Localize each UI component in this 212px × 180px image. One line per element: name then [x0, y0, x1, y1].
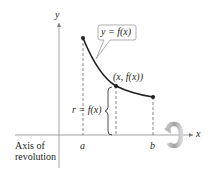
sample-point-label: (x, f(x)) [113, 72, 143, 82]
y-axis-label: y [55, 10, 59, 20]
x-axis-label: x [196, 129, 200, 139]
tick-label-a: a [80, 141, 85, 151]
axis-of-revolution-label-line2: revolution [15, 152, 56, 162]
radius-brace-icon [105, 87, 112, 135]
tick-label-b: b [150, 141, 155, 151]
point-x-fx [114, 84, 118, 88]
point-b [151, 95, 155, 99]
curve-label: y = f(x) [101, 27, 131, 37]
curve-f [83, 38, 153, 97]
axis-of-revolution-label-line1: Axis of [15, 141, 45, 151]
point-a [81, 36, 85, 40]
radius-label: r = f(x) [72, 105, 102, 115]
